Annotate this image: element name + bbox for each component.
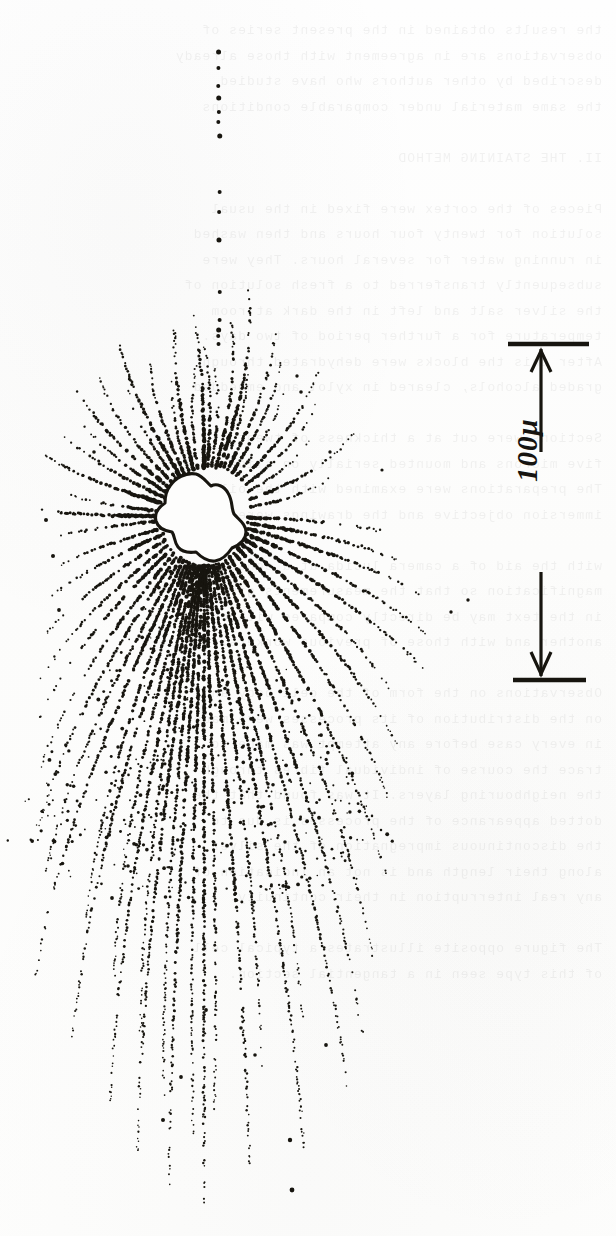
process-stipple: [231, 870, 234, 873]
process-stipple: [220, 607, 223, 610]
process-stipple: [244, 681, 247, 684]
process-stipple: [293, 417, 296, 420]
process-stipple: [169, 873, 171, 875]
process-stipple: [110, 803, 113, 806]
process-stipple: [168, 906, 170, 908]
process-stipple: [136, 791, 139, 794]
process-stipple: [269, 802, 272, 805]
process-stipple: [340, 800, 342, 802]
process-stipple: [127, 910, 130, 913]
process-stipple: [177, 916, 180, 919]
process-stipple: [171, 381, 173, 383]
process-stipple: [232, 346, 234, 348]
process-stipple: [197, 736, 199, 738]
process-stipple: [191, 993, 193, 995]
process-stipple: [233, 579, 237, 583]
process-stipple: [53, 655, 55, 657]
process-stipple: [283, 784, 286, 787]
process-stipple: [38, 825, 39, 826]
process-stipple: [358, 565, 361, 568]
process-stipple: [280, 948, 282, 950]
process-stipple: [154, 664, 157, 667]
process-stipple: [249, 704, 252, 707]
process-stipple: [52, 839, 56, 843]
process-stipple: [235, 432, 239, 436]
process-stipple: [332, 686, 335, 689]
process-stipple: [203, 1097, 205, 1099]
process-stipple: [306, 687, 310, 691]
process-stipple: [256, 973, 258, 975]
process-stipple: [94, 723, 96, 725]
process-stipple: [249, 307, 252, 310]
process-stipple: [339, 655, 341, 657]
process-stipple: [182, 717, 185, 720]
process-stipple: [202, 1039, 205, 1042]
process-stipple: [162, 759, 165, 762]
process-stipple: [335, 691, 338, 694]
process-stipple: [129, 799, 131, 801]
process-stipple: [246, 739, 249, 742]
process-stipple: [72, 513, 75, 516]
process-stipple: [347, 767, 349, 769]
process-stipple: [245, 874, 248, 877]
process-stipple: [150, 637, 151, 638]
process-stipple: [147, 694, 149, 696]
process-stipple: [216, 334, 220, 338]
process-stipple: [258, 628, 262, 632]
process-stipple: [225, 590, 229, 594]
process-stipple: [169, 616, 172, 619]
process-stipple: [314, 533, 317, 536]
process-stipple: [111, 525, 114, 528]
process-stipple: [176, 792, 178, 794]
process-stipple: [298, 409, 301, 412]
process-stipple: [79, 625, 82, 628]
process-stipple: [236, 605, 240, 609]
process-stipple: [156, 878, 158, 880]
process-stipple: [201, 790, 205, 794]
process-stipple: [152, 446, 154, 448]
process-stipple: [266, 372, 269, 375]
process-stipple: [89, 735, 91, 737]
process-stipple: [252, 650, 255, 653]
process-stipple: [132, 481, 136, 485]
process-stipple: [203, 861, 206, 864]
process-stipple: [134, 441, 137, 444]
process-stipple: [107, 725, 110, 728]
process-stipple: [321, 838, 322, 839]
process-stipple: [134, 795, 137, 798]
process-stipple: [326, 589, 330, 593]
process-stipple: [222, 452, 226, 456]
process-stipple: [179, 741, 183, 745]
process-stipple: [109, 450, 111, 452]
process-stipple: [143, 477, 146, 480]
process-stipple: [109, 469, 112, 472]
process-stipple: [326, 751, 330, 755]
process-stipple: [326, 866, 328, 868]
process-stipple: [168, 904, 170, 906]
process-stipple: [227, 697, 231, 701]
process-stipple: [232, 341, 234, 343]
process-stipple: [355, 998, 357, 1000]
process-stipple: [206, 644, 210, 648]
process-stipple: [126, 842, 128, 844]
process-stipple: [227, 453, 230, 456]
process-stipple: [277, 608, 280, 611]
process-stipple: [193, 900, 197, 904]
process-stipple: [378, 850, 380, 852]
process-stipple: [258, 516, 263, 521]
process-stipple: [361, 738, 364, 741]
process-stipple: [118, 474, 121, 477]
process-stipple: [211, 754, 213, 756]
process-stipple: [78, 759, 80, 761]
process-stipple: [94, 586, 97, 589]
process-stipple: [173, 603, 177, 607]
process-stipple: [195, 464, 199, 468]
process-stipple: [69, 784, 72, 787]
process-stipple: [303, 593, 306, 596]
process-stipple: [149, 772, 152, 775]
process-stipple: [238, 421, 241, 424]
process-stipple: [267, 786, 269, 788]
process-stipple: [340, 628, 343, 631]
process-stipple: [113, 453, 116, 456]
process-stipple: [116, 745, 119, 748]
